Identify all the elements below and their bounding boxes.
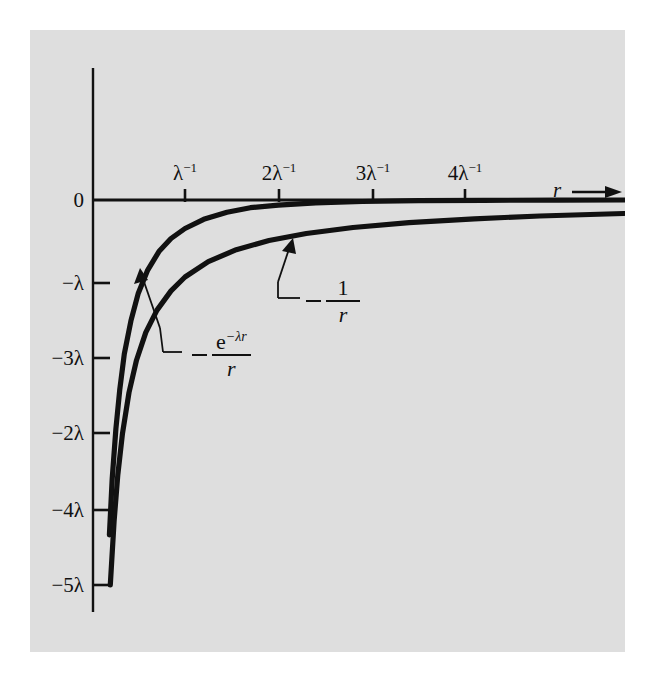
figure-root: 0 −λ −3λ −2λ −4λ −5λ λ−1 2λ−1 3λ−1 4λ−1 … [0,0,656,675]
y-tick-label-5: −5λ [51,575,84,596]
curve-yukawa-potential [109,200,623,535]
y-axis-origin-label: 0 [74,190,85,211]
yukawa-minus-sign [192,354,207,356]
yukawa-numerator-exponent: −λr [226,329,247,344]
yukawa-fraction: e−λr r [212,330,251,381]
yukawa-denominator: r [223,356,240,380]
right-arrow-icon [572,186,622,198]
coulomb-fraction: 1 r [326,276,360,326]
x-tick-label-4: 4λ−1 [448,161,483,184]
coulomb-numerator: 1 [334,276,353,300]
x-tick-label-3: 3λ−1 [356,161,391,184]
x-tick-3-exponent: −1 [376,160,390,175]
yukawa-numerator: e−λr [212,330,251,354]
x-tick-2-exponent: −1 [282,160,296,175]
x-tick-2-base: 2λ [262,161,283,185]
coulomb-denominator: r [335,302,352,326]
coulomb-potential-label: 1 r [306,276,360,326]
x-axis-variable-label: r [553,180,561,201]
yukawa-numerator-base: e [216,329,226,354]
x-tick-label-2: 2λ−1 [262,161,297,184]
x-tick-3-base: 3λ [356,161,377,185]
x-tick-4-exponent: −1 [468,160,482,175]
coulomb-minus-sign [306,300,321,302]
y-tick-label-2: −3λ [51,348,84,369]
y-tick-label-3: −2λ [51,423,84,444]
y-tick-label-4: −4λ [51,500,84,521]
y-tick-marks [93,283,110,585]
plot-graphics [30,30,625,652]
yukawa-potential-label: e−λr r [192,330,251,381]
x-tick-4-base: 4λ [448,161,469,185]
x-tick-label-1: λ−1 [173,161,197,184]
curve-coulomb-potential [110,214,623,586]
x-tick-1-exponent: −1 [183,160,197,175]
x-tick-1-base: λ [173,161,183,185]
leader-coulomb [278,238,300,298]
plot-panel: 0 −λ −3λ −2λ −4λ −5λ λ−1 2λ−1 3λ−1 4λ−1 … [30,30,625,652]
y-tick-label-1: −λ [62,273,84,294]
